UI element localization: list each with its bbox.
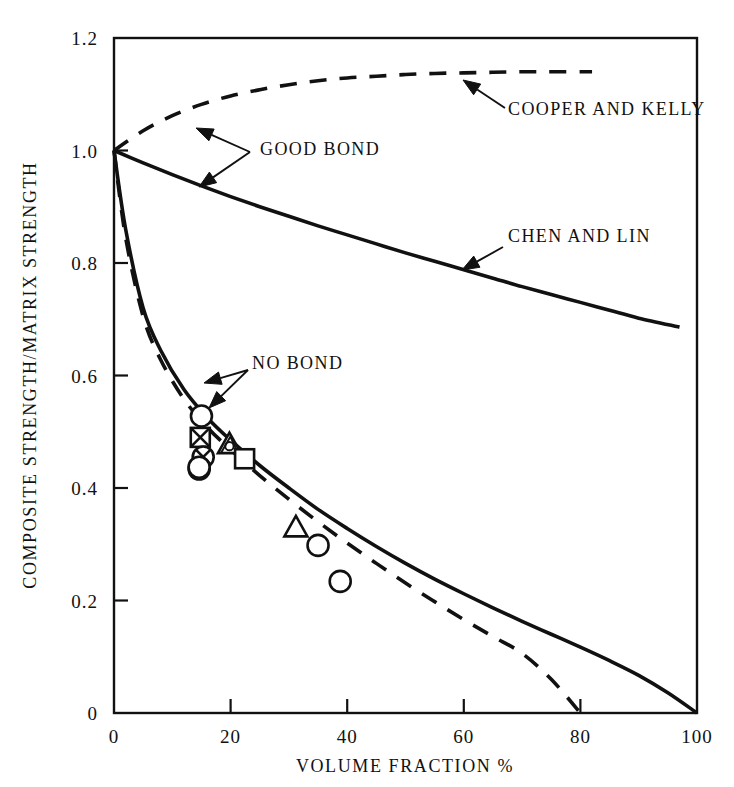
- x-tick-label-20: 20: [220, 726, 241, 747]
- data-point-square-crossed: [191, 428, 210, 447]
- composite-strength-chart: 020406080100 00.20.40.60.81.01.2 COOPER …: [0, 0, 734, 787]
- y-tick-label-0.4: 0.4: [71, 478, 98, 499]
- annotation-cooper-and-kelly: COOPER AND KELLY: [508, 99, 706, 119]
- x-tick-label-100: 100: [681, 726, 713, 747]
- data-point-square-open: [235, 449, 254, 468]
- y-tick-label-0.8: 0.8: [71, 253, 98, 274]
- y-tick-label-1.0: 1.0: [71, 141, 98, 162]
- data-point-circle-open: [189, 457, 210, 478]
- y-tick-label-0.2: 0.2: [71, 591, 98, 612]
- annotation-chen-and-lin: CHEN AND LIN: [508, 226, 651, 246]
- y-axis-title: COMPOSITE STRENGTH/MATRIX STRENGTH: [20, 161, 40, 588]
- y-tick-label-0: 0: [88, 703, 99, 724]
- annotation-good-bond: GOOD BOND: [260, 139, 380, 159]
- y-tick-label-1.2: 1.2: [71, 28, 98, 49]
- x-tick-label-0: 0: [109, 726, 120, 747]
- data-point-circle-open: [330, 571, 351, 592]
- data-point-circle-open: [191, 406, 212, 427]
- x-tick-label-40: 40: [337, 726, 358, 747]
- data-point-circle-open: [308, 535, 329, 556]
- x-tick-label-60: 60: [453, 726, 474, 747]
- chart-figure: 020406080100 00.20.40.60.81.01.2 COOPER …: [0, 0, 734, 787]
- annotation-no-bond: NO BOND: [252, 353, 343, 373]
- x-tick-label-80: 80: [570, 726, 591, 747]
- y-tick-label-0.6: 0.6: [71, 366, 98, 387]
- x-axis-title: VOLUME FRACTION %: [296, 756, 514, 776]
